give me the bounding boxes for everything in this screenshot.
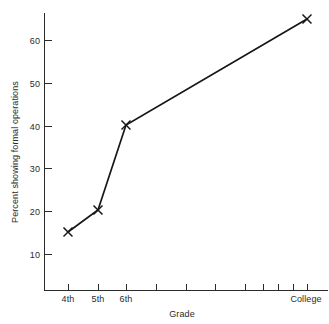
chart-figure: 60 50 40 30 20 10 4th 5th 6th College: [0, 0, 329, 324]
y-tick-label-40: 40: [30, 122, 40, 132]
line-chart-plot: 60 50 40 30 20 10 4th 5th 6th College: [0, 0, 329, 324]
x-tick-label-5th: 5th: [92, 294, 105, 304]
x-axis-title: Grade: [169, 309, 195, 319]
y-tick-label-30: 30: [30, 164, 40, 174]
x-tick-label-college: College: [290, 294, 321, 304]
y-axis-title: Percent showing formal operations: [10, 81, 20, 223]
y-tick-label-10: 10: [30, 250, 40, 260]
data-point-marker-6th: [122, 121, 131, 130]
y-tick-label-50: 50: [30, 79, 40, 89]
data-point-marker-college: [303, 15, 312, 24]
y-tick-label-60: 60: [30, 36, 40, 46]
data-series-line: [68, 19, 307, 232]
y-tick-label-20: 20: [30, 207, 40, 217]
x-tick-label-4th: 4th: [62, 294, 75, 304]
data-point-marker-5th: [94, 206, 103, 215]
x-tick-label-6th: 6th: [120, 294, 133, 304]
data-point-marker-4th: [64, 228, 73, 237]
